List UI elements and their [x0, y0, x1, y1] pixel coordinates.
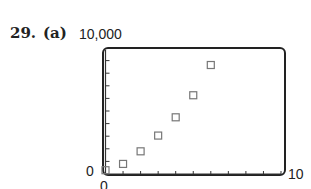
data-point-marker: [172, 114, 179, 121]
data-points: [102, 62, 214, 174]
data-point-marker: [120, 160, 127, 167]
data-point-marker: [207, 62, 214, 69]
viewing-window-frame: [103, 48, 285, 175]
axes: [106, 50, 282, 174]
data-point-marker: [190, 92, 197, 99]
data-point-marker: [137, 148, 144, 155]
data-point-marker: [155, 132, 162, 139]
scatter-plot: [0, 0, 311, 189]
